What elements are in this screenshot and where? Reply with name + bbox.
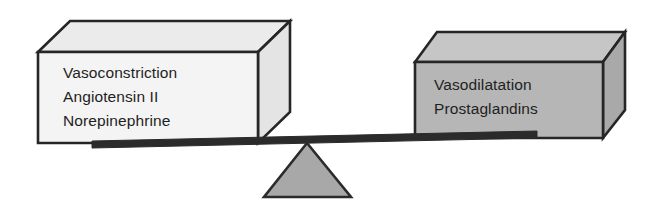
right-block-line-1: Vasodilatation	[434, 76, 532, 93]
left-block-line-2: Angiotensin II	[63, 88, 158, 105]
left-block-top-face	[38, 21, 290, 52]
left-block-line-1: Vasoconstriction	[63, 64, 177, 81]
vasodilatation-block: Vasodilatation Prostaglandins	[415, 32, 625, 138]
right-block-top-face	[415, 32, 625, 62]
left-block-line-3: Norepinephrine	[63, 112, 170, 129]
right-block-line-2: Prostaglandins	[434, 100, 538, 117]
fulcrum-triangle	[264, 143, 351, 197]
balance-diagram-canvas: Vasoconstriction Angiotensin II Norepine…	[0, 0, 653, 215]
balance-diagram: Vasoconstriction Angiotensin II Norepine…	[0, 0, 653, 215]
vasoconstriction-block: Vasoconstriction Angiotensin II Norepine…	[38, 21, 290, 143]
